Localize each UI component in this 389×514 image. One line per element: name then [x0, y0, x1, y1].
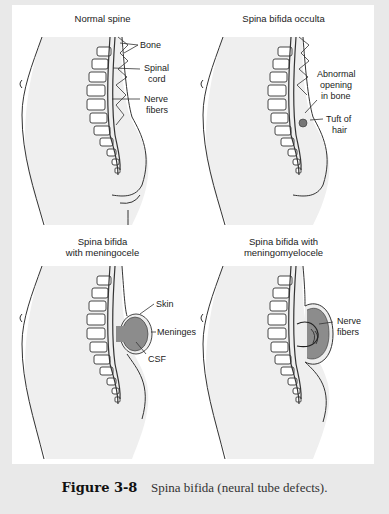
- label-in-bone: in bone: [321, 91, 351, 101]
- panel-meningomyelocele: Spina bifida with meningomyelocele: [193, 234, 374, 459]
- figure-caption: Figure 3-8 Spina bifida (neural tube def…: [0, 480, 389, 496]
- figure-caption-text: Spina bifida (neural tube defects).: [151, 480, 328, 495]
- label-hair: hair: [332, 125, 347, 135]
- panel-normal-spine: Normal spine: [12, 5, 193, 230]
- figure-number: Figure 3-8: [62, 480, 138, 495]
- label-bone: Bone: [140, 40, 161, 50]
- label-nerve: Nerve: [144, 94, 168, 104]
- panel-meningocele: Spina bifida with meningocele: [12, 234, 193, 459]
- meningocele-illustration: [12, 234, 193, 459]
- label-opening: opening: [320, 80, 352, 90]
- label-tuft-of: Tuft of: [326, 114, 351, 124]
- label-fibers: fibers: [146, 105, 168, 115]
- label-spinal: Spinal: [144, 63, 169, 73]
- label-skin: Skin: [156, 299, 174, 309]
- meningomyelocele-illustration: [193, 234, 374, 459]
- label-meninges: Meninges: [157, 327, 196, 337]
- figure-panel: Normal spine: [12, 5, 374, 464]
- panel-spina-bifida-occulta: Spina bifida occulta: [193, 5, 374, 230]
- normal-spine-illustration: [12, 5, 193, 230]
- label-abnormal: Abnormal: [317, 69, 356, 79]
- label-nerve: Nerve: [337, 316, 361, 326]
- label-cord: cord: [148, 74, 166, 84]
- label-fibers: fibers: [337, 327, 359, 337]
- label-csf: CSF: [148, 354, 166, 364]
